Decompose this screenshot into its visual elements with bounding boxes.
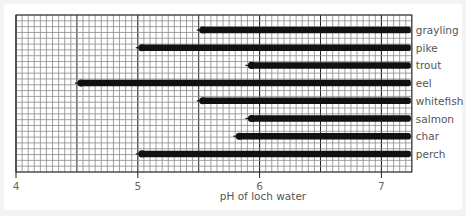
bar-grayling <box>197 26 411 33</box>
category-label: eel <box>416 77 432 89</box>
category-label: char <box>416 130 440 142</box>
bar-pike <box>136 44 411 51</box>
x-tick-label: 5 <box>134 180 141 192</box>
category-label: pike <box>416 42 438 54</box>
category-label: trout <box>416 59 441 71</box>
x-axis: 4567 <box>13 172 385 192</box>
category-labels: graylingpiketrouteelwhitefishsalmoncharp… <box>416 24 463 160</box>
category-label: whitefish <box>416 95 463 107</box>
bar-eel <box>75 80 411 87</box>
bar-perch <box>136 150 411 157</box>
bar-char <box>233 133 411 140</box>
x-axis-title: pH of loch water <box>220 190 307 202</box>
category-label: grayling <box>416 24 459 36</box>
x-tick-label: 7 <box>378 180 385 192</box>
category-label: salmon <box>416 113 454 125</box>
chart-grid <box>16 15 412 172</box>
bar-trout <box>245 62 410 69</box>
fish-ph-tolerance-chart: graylingpiketrouteelwhitefishsalmoncharp… <box>0 0 466 216</box>
bar-whitefish <box>197 97 411 104</box>
bar-salmon <box>245 115 410 122</box>
category-label: perch <box>416 148 446 160</box>
x-tick-label: 4 <box>13 180 20 192</box>
